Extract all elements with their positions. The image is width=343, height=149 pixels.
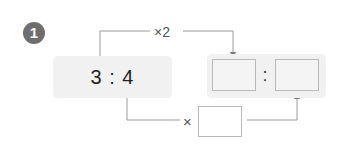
bottom-connector-line-right [247,98,297,120]
multiply-symbol: × [183,113,192,130]
top-connector-line-right [183,31,233,53]
multiplier-answer-box[interactable] [198,106,242,137]
answer-box-second-term[interactable] [275,59,319,91]
answer-box-first-term[interactable] [212,59,256,91]
top-multiplier-label: ×2 [154,24,170,40]
answer-ratio-separator: : [259,59,271,91]
given-ratio: 3 : 4 [53,56,172,98]
